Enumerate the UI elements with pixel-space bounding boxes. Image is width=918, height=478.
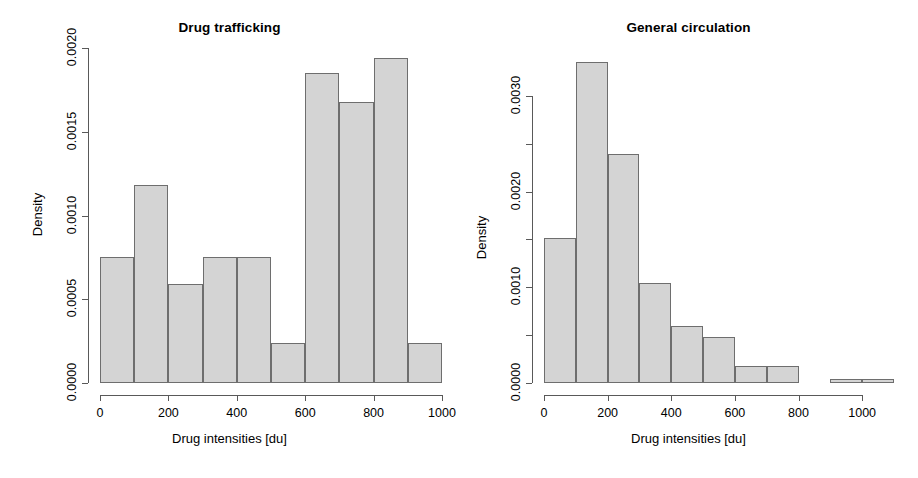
histogram-bar <box>639 283 671 384</box>
bar-series-left <box>100 48 442 383</box>
y-axis-tick <box>526 335 532 336</box>
y-axis-tick-label: 0.0010 <box>509 256 523 316</box>
histogram-bar <box>608 154 640 383</box>
x-axis-tick <box>544 395 545 401</box>
y-axis-tick-label: 0.0010 <box>65 185 79 245</box>
y-axis-tick-label: 0.0020 <box>509 161 523 221</box>
y-axis-tick <box>526 239 532 240</box>
x-axis-tick-label: 200 <box>578 406 638 420</box>
y-axis-line <box>88 48 89 383</box>
y-axis-tick <box>82 299 88 300</box>
histogram-bar <box>374 58 408 383</box>
x-axis-tick-label: 1000 <box>832 406 892 420</box>
histogram-bar <box>767 366 799 383</box>
histogram-bar <box>339 102 373 383</box>
x-axis-tick-label: 600 <box>705 406 765 420</box>
y-axis-tick <box>526 192 532 193</box>
histogram-figure: Drug trafficking Density 0.00000.00050.0… <box>0 0 918 478</box>
panel-drug-trafficking: Drug trafficking Density 0.00000.00050.0… <box>0 0 459 478</box>
plot-area-right <box>544 48 894 383</box>
x-axis-title-left: Drug intensities [du] <box>0 431 459 446</box>
x-axis-tick <box>735 395 736 401</box>
x-axis-tick <box>237 395 238 401</box>
y-axis-title-left: Density <box>30 169 45 259</box>
panel-general-circulation: General circulation Density 0.00000.0010… <box>459 0 918 478</box>
histogram-bar <box>168 284 202 383</box>
histogram-bar <box>703 337 735 383</box>
x-axis-tick <box>799 395 800 401</box>
y-axis-tick-label: 0.0000 <box>65 352 79 412</box>
y-axis-tick <box>82 216 88 217</box>
x-axis-tick-label: 0 <box>514 406 574 420</box>
bar-series-right <box>544 48 894 383</box>
x-axis-line <box>100 395 442 396</box>
y-axis-tick-label: 0.0020 <box>65 17 79 77</box>
x-axis-tick <box>862 395 863 401</box>
x-axis-tick-label: 600 <box>275 406 335 420</box>
x-axis-tick-label: 200 <box>138 406 198 420</box>
x-axis-tick <box>305 395 306 401</box>
x-axis-tick <box>100 395 101 401</box>
x-axis-title-right: Drug intensities [du] <box>459 431 918 446</box>
y-axis-tick <box>526 287 532 288</box>
x-axis-tick <box>608 395 609 401</box>
histogram-bar <box>735 366 767 383</box>
histogram-bar <box>100 257 134 383</box>
histogram-bar <box>237 257 271 383</box>
histogram-bar <box>203 257 237 383</box>
histogram-bar <box>862 379 894 383</box>
y-axis-tick-label: 0.0015 <box>65 101 79 161</box>
y-axis-tick-label: 0.0030 <box>509 65 523 125</box>
x-axis-tick <box>442 395 443 401</box>
y-axis-tick-label: 0.0000 <box>509 352 523 412</box>
panel-title-right: General circulation <box>459 20 918 35</box>
y-axis-tick <box>82 132 88 133</box>
y-axis-tick <box>526 144 532 145</box>
y-axis-line <box>532 96 533 383</box>
y-axis-tick <box>526 96 532 97</box>
x-axis-tick <box>374 395 375 401</box>
histogram-bar <box>544 238 576 383</box>
x-axis-tick-label: 400 <box>641 406 701 420</box>
histogram-bar <box>830 379 862 383</box>
x-axis-tick-label: 400 <box>207 406 267 420</box>
x-axis-tick-label: 0 <box>70 406 130 420</box>
histogram-bar <box>134 185 168 383</box>
histogram-bar <box>271 343 305 383</box>
plot-area-left <box>100 48 442 383</box>
y-axis-title-right: Density <box>474 193 489 283</box>
y-axis-tick-label: 0.0005 <box>65 268 79 328</box>
histogram-bar <box>305 73 339 383</box>
x-axis-tick <box>168 395 169 401</box>
histogram-bar <box>576 62 608 383</box>
x-axis-tick <box>671 395 672 401</box>
y-axis-tick <box>82 383 88 384</box>
x-axis-tick-label: 800 <box>344 406 404 420</box>
y-axis-tick <box>82 48 88 49</box>
y-axis-tick <box>526 383 532 384</box>
histogram-bar <box>408 343 442 383</box>
x-axis-line <box>544 395 862 396</box>
x-axis-tick-label: 800 <box>769 406 829 420</box>
histogram-bar <box>671 326 703 383</box>
